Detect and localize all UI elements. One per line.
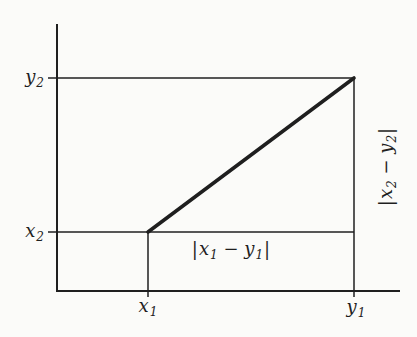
label-x1: x1: [132, 297, 164, 315]
figure-canvas: y2 x2 x1 y1 |x1 − y1| |x2 − y2|: [0, 0, 417, 337]
label-y2: y2: [16, 68, 44, 86]
label-y1: y1: [340, 298, 372, 316]
label-x2: x2: [16, 222, 44, 240]
label-horizontal-distance: |x1 − y1|: [181, 240, 281, 258]
label-vertical-distance: |x2 − y2|: [377, 117, 395, 217]
diagonal-segment: [148, 78, 354, 232]
diagram-lines: [0, 0, 417, 337]
